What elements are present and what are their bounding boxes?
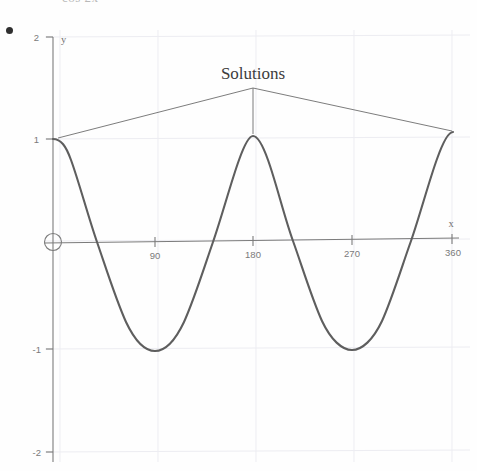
leader-line-left xyxy=(58,88,253,138)
y-tick-label-neg1: -1 xyxy=(33,344,41,355)
cos2x-graph-figure: 2 1 -1 -2 y 90 180 270 360 x xyxy=(0,0,477,471)
x-tick-label-180: 180 xyxy=(245,249,261,260)
leader-line-right xyxy=(253,88,452,131)
y-axis: 2 1 -1 -2 y xyxy=(33,32,67,462)
y-axis-label: y xyxy=(61,34,67,45)
solutions-callout-label: Solutions xyxy=(221,64,285,83)
x-tick-label-270: 270 xyxy=(344,248,360,259)
y-tick-label-1: 1 xyxy=(34,134,39,145)
x-tick-label-360: 360 xyxy=(445,247,461,258)
y-tick-label-2: 2 xyxy=(34,32,39,43)
solutions-leader-lines xyxy=(58,88,452,138)
x-axis-label: x xyxy=(448,218,454,229)
scanned-page: cos 2x 2 1 -1 -2 y xyxy=(0,0,477,471)
y-tick-label-neg2: -2 xyxy=(33,447,41,458)
background-gridlines xyxy=(45,30,470,462)
x-tick-label-90: 90 xyxy=(150,250,161,261)
